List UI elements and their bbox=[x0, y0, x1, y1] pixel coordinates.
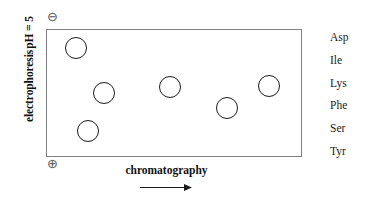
spot-3 bbox=[77, 120, 99, 142]
legend-item: Lys bbox=[330, 76, 367, 99]
right-arrow-icon bbox=[140, 182, 192, 193]
spot-5 bbox=[216, 97, 238, 119]
legend-item: Tyr bbox=[330, 144, 367, 167]
x-axis-label: chromatography bbox=[74, 164, 259, 176]
chromatography-plate bbox=[46, 29, 302, 157]
legend-item: Ile bbox=[330, 53, 367, 76]
legend: Asp Ile Lys Phe Ser Tyr bbox=[330, 30, 367, 167]
y-axis-label: electrophoresis pH = 5 bbox=[12, 9, 46, 129]
legend-item: Phe bbox=[330, 98, 367, 121]
amino-acid-fingerprint-diagram: ⊖ ⊕ electrophoresis pH = 5 chromatograph… bbox=[0, 0, 367, 197]
spot-2 bbox=[93, 82, 115, 104]
legend-item: Ser bbox=[330, 121, 367, 144]
spot-1 bbox=[65, 37, 87, 59]
legend-item: Asp bbox=[330, 30, 367, 53]
spot-6 bbox=[258, 75, 280, 97]
y-axis-label-line2: pH = 5 bbox=[23, 16, 35, 49]
circled-plus-icon: ⊕ bbox=[46, 158, 59, 171]
spot-4 bbox=[159, 76, 181, 98]
y-axis-label-line1: electrophoresis bbox=[23, 50, 35, 122]
circled-minus-icon: ⊖ bbox=[46, 11, 59, 24]
